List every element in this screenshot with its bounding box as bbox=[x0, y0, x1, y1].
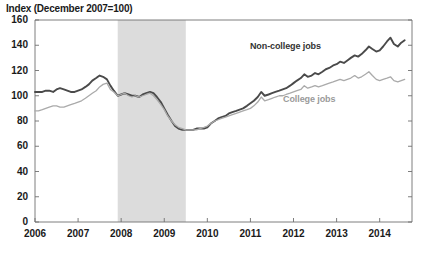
y-tick-0: 0 bbox=[0, 217, 28, 227]
data-series-layer bbox=[35, 38, 405, 130]
series-label-non-college-jobs: Non-college jobs bbox=[250, 41, 321, 51]
y-tick-80: 80 bbox=[0, 116, 28, 126]
y-tick-120: 120 bbox=[0, 66, 28, 76]
axis-ticks-layer bbox=[35, 20, 412, 222]
x-tick-2014: 2014 bbox=[360, 229, 400, 239]
x-tick-2009: 2009 bbox=[144, 229, 184, 239]
x-tick-2008: 2008 bbox=[101, 229, 141, 239]
x-tick-2010: 2010 bbox=[187, 229, 227, 239]
plot-area bbox=[0, 0, 432, 253]
x-tick-2013: 2013 bbox=[317, 229, 357, 239]
x-tick-2011: 2011 bbox=[230, 229, 270, 239]
series-line-college-jobs bbox=[35, 72, 405, 130]
series-label-college-jobs: College jobs bbox=[283, 94, 335, 104]
y-tick-100: 100 bbox=[0, 91, 28, 101]
recession-band bbox=[118, 20, 186, 222]
recession-shading-layer bbox=[118, 20, 186, 222]
x-tick-2006: 2006 bbox=[15, 229, 55, 239]
y-tick-40: 40 bbox=[0, 167, 28, 177]
axis-frame-layer bbox=[35, 20, 412, 222]
y-tick-20: 20 bbox=[0, 192, 28, 202]
y-tick-140: 140 bbox=[0, 40, 28, 50]
x-tick-2007: 2007 bbox=[58, 229, 98, 239]
x-tick-2012: 2012 bbox=[274, 229, 314, 239]
series-line-non-college-jobs bbox=[35, 38, 405, 130]
chart-container: Index (December 2007=100) 02040608010012… bbox=[0, 0, 432, 253]
y-tick-160: 160 bbox=[0, 15, 28, 25]
y-tick-60: 60 bbox=[0, 141, 28, 151]
